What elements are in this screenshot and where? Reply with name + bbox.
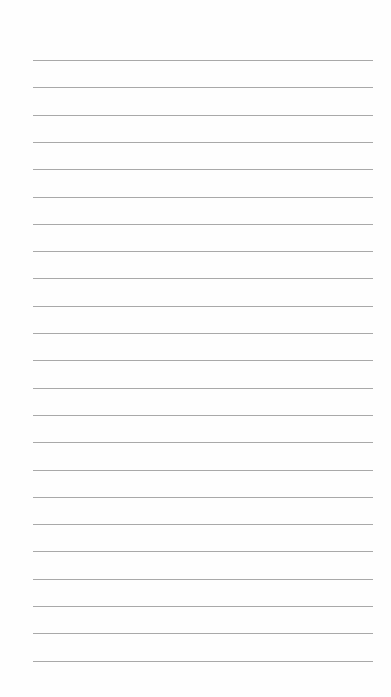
ruled-line [33,251,373,252]
ruled-line [33,60,373,61]
ruled-line [33,388,373,389]
ruled-line [33,197,373,198]
ruled-line [33,306,373,307]
ruled-line [33,470,373,471]
ruled-line [33,551,373,552]
ruled-line [33,142,373,143]
ruled-line [33,497,373,498]
ruled-line [33,87,373,88]
lined-paper-page [0,0,391,697]
ruled-line [33,333,373,334]
ruled-line [33,633,373,634]
ruled-line [33,278,373,279]
ruled-line [33,224,373,225]
ruled-line [33,579,373,580]
ruled-line [33,360,373,361]
ruled-line [33,606,373,607]
ruled-line [33,115,373,116]
ruled-line [33,169,373,170]
ruled-line [33,661,373,662]
ruled-line [33,415,373,416]
ruled-line [33,442,373,443]
ruled-line [33,524,373,525]
